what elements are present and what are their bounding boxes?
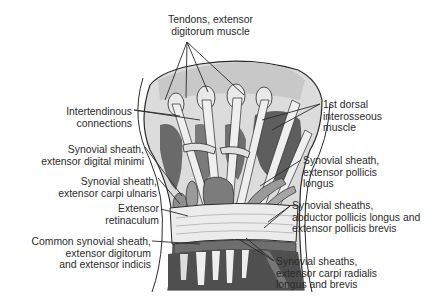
label-tendons-extensor-digitorum: Tendons, extensor digitorum muscle [168,14,253,37]
label-first-dorsal-interosseous: 1st dorsal interosseous muscle [323,99,382,134]
label-synovial-sheath-edm: Synovial sheath, extensor digital minimi [41,144,144,167]
label-synovial-sheath-ecu: Synovial sheath, extensor carpi ulnaris [58,176,157,199]
label-intertendinous-connections: Intertendinous connections [66,106,132,129]
label-synovial-sheaths-apl-epb: Synovial sheaths, abductor pollicis long… [292,200,420,235]
extensor-retinaculum [170,203,298,254]
label-common-synovial-sheath: Common synovial sheath, extensor digitor… [31,236,151,271]
label-synovial-sheaths-ecrl-ecrb: Synovial sheaths, extensor carpi radiali… [276,256,377,291]
label-extensor-retinaculum: Extensor retinaculum [105,203,159,226]
label-synovial-sheath-epl: Synovial sheath, extensor pollicis longu… [303,155,379,190]
